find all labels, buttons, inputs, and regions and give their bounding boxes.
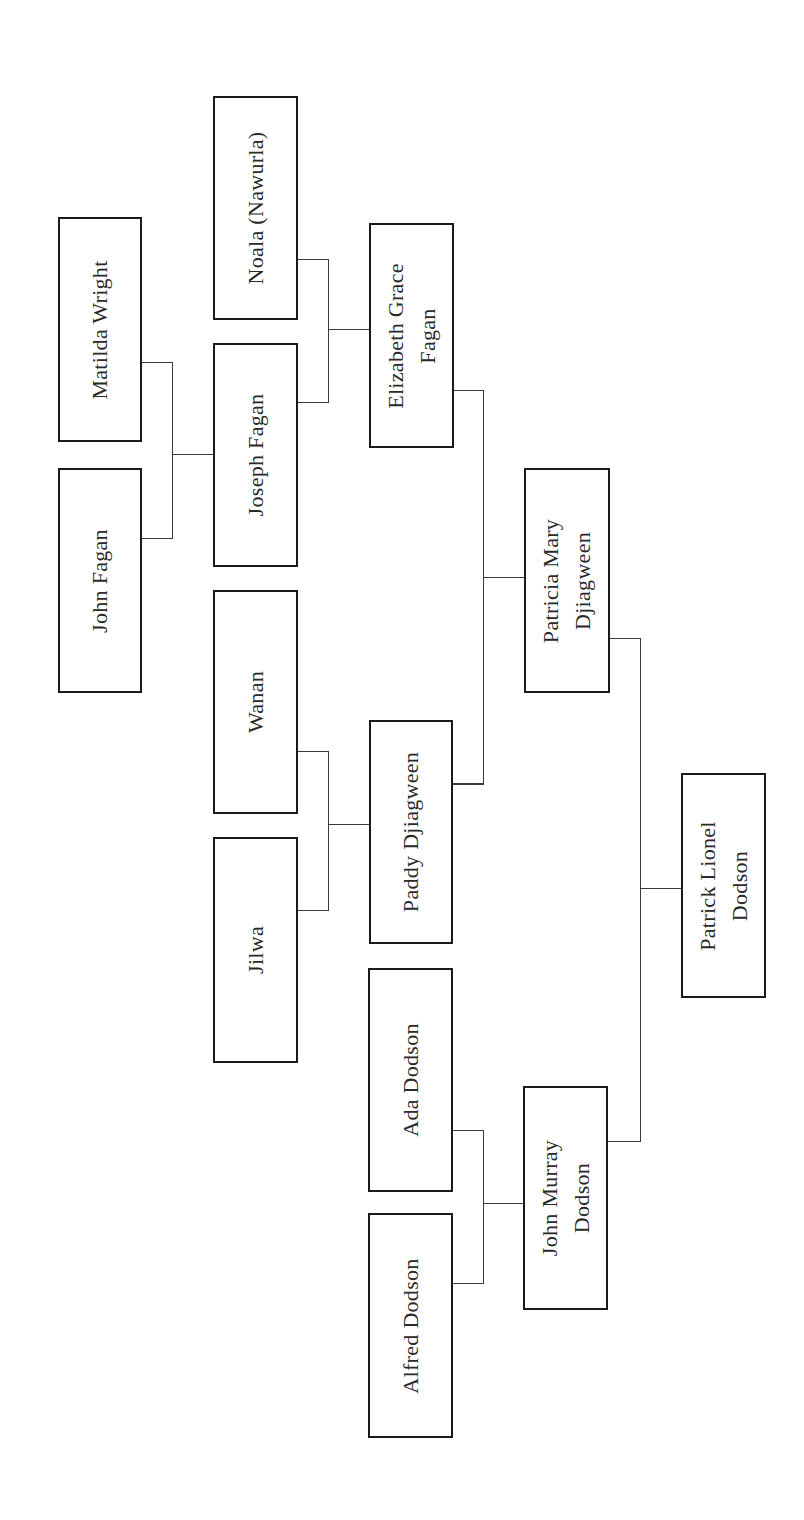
name-line: John Murray <box>534 1140 566 1256</box>
person-box-john-murray-dodson: John Murray Dodson <box>523 1086 608 1310</box>
name-line: Wanan <box>240 671 272 733</box>
name-line: Matilda Wright <box>84 260 116 399</box>
connector-john-murray-out <box>607 1141 641 1142</box>
person-box-ada-dodson: Ada Dodson <box>368 968 453 1192</box>
person-name: Matilda Wright <box>84 260 116 399</box>
name-line: Ada Dodson <box>395 1023 427 1137</box>
name-line: Noala (Nawurla) <box>240 132 272 285</box>
name-line: John Fagan <box>84 529 116 633</box>
person-name: Jilwa <box>240 926 272 974</box>
connector-fagan-parents-vertical <box>172 362 173 539</box>
connector-to-john-murray <box>483 1203 523 1204</box>
person-box-patricia-mary-djiagween: Patricia Mary Djiagween <box>524 468 610 693</box>
connector-matilda-wright <box>141 362 173 363</box>
name-line: Fagan <box>412 263 444 409</box>
connector-joseph-fagan-out <box>297 402 329 403</box>
person-name: Wanan <box>240 671 272 733</box>
name-line: Djiagween <box>567 518 599 642</box>
connector-wanan <box>297 751 329 752</box>
connector-jilwa <box>297 910 329 911</box>
name-line: Patricia Mary <box>535 518 567 642</box>
person-box-wanan: Wanan <box>213 590 298 814</box>
name-line: Dodson <box>724 821 756 950</box>
connector-patricia-parents-vertical <box>483 390 484 784</box>
connector-jmd-parents-vertical <box>483 1130 484 1284</box>
person-box-jilwa: Jilwa <box>213 837 298 1063</box>
person-box-elizabeth-grace-fagan: Elizabeth Grace Fagan <box>369 223 454 448</box>
connector-to-paddy <box>328 824 369 825</box>
connector-to-joseph-fagan <box>172 454 213 455</box>
name-line: Dodson <box>566 1140 598 1256</box>
connector-noala <box>297 259 329 260</box>
person-name: Ada Dodson <box>395 1023 427 1137</box>
person-box-john-fagan: John Fagan <box>58 468 142 693</box>
connector-ada-dodson <box>452 1130 484 1131</box>
name-line: Joseph Fagan <box>240 394 272 517</box>
connector-to-elizabeth <box>328 329 369 330</box>
person-box-alfred-dodson: Alfred Dodson <box>368 1213 453 1438</box>
person-box-matilda-wright: Matilda Wright <box>58 217 142 442</box>
person-box-noala: Noala (Nawurla) <box>213 96 298 320</box>
connector-paddy-out <box>452 783 484 785</box>
person-name: John Fagan <box>84 529 116 633</box>
person-name: Elizabeth Grace Fagan <box>380 263 444 409</box>
connector-alfred-dodson <box>452 1283 484 1284</box>
name-line: Elizabeth Grace <box>380 263 412 409</box>
name-line: Paddy Djiagween <box>395 752 427 912</box>
connector-paddy-parents-vertical <box>328 751 329 911</box>
name-line: Alfred Dodson <box>395 1258 427 1393</box>
connector-patrick-parents-vertical <box>640 638 641 1142</box>
connector-to-patrick <box>640 888 681 889</box>
person-box-joseph-fagan: Joseph Fagan <box>213 343 298 567</box>
connector-elizabeth-parents-vertical <box>328 259 329 403</box>
family-tree-diagram: Matilda Wright John Fagan Noala (Nawurla… <box>0 0 804 1520</box>
person-box-paddy-djiagween: Paddy Djiagween <box>369 720 453 944</box>
connector-patricia-out <box>609 638 641 639</box>
connector-elizabeth-out <box>452 390 484 391</box>
name-line: Patrick Lionel <box>692 821 724 950</box>
person-name: Joseph Fagan <box>240 394 272 517</box>
person-name: Patricia Mary Djiagween <box>535 518 599 642</box>
name-line: Jilwa <box>240 926 272 974</box>
connector-to-patricia <box>483 577 524 578</box>
person-name: John Murray Dodson <box>534 1140 598 1256</box>
person-box-patrick-lionel-dodson: Patrick Lionel Dodson <box>681 773 766 998</box>
person-name: Patrick Lionel Dodson <box>692 821 756 950</box>
person-name: Paddy Djiagween <box>395 752 427 912</box>
connector-john-fagan <box>141 538 173 539</box>
person-name: Noala (Nawurla) <box>240 132 272 285</box>
person-name: Alfred Dodson <box>395 1258 427 1393</box>
